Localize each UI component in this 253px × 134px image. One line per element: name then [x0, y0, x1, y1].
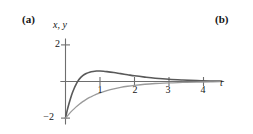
- x-tick-label-1: 1: [94, 84, 106, 95]
- x-tick-label-2: 2: [129, 84, 141, 95]
- y-axis-caption: x, y: [53, 19, 67, 30]
- y-tick-label-minus-2: −2: [38, 111, 54, 122]
- x-tick-label-3: 3: [162, 84, 174, 95]
- x-tick-label-4: 4: [197, 84, 209, 95]
- y-tick-label-2: 2: [44, 38, 60, 49]
- figure-container: (a) (b) x, y t 2 −2 1 2 3 4: [0, 0, 253, 134]
- x-axis-caption: t: [220, 77, 223, 88]
